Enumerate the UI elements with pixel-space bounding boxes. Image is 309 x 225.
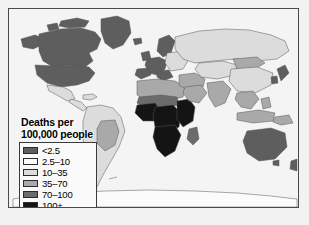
legend-swatch-2-5-10 xyxy=(23,158,38,165)
legend-entry-70-100: 70–100 xyxy=(23,189,93,200)
coastline-tasmania xyxy=(273,160,279,166)
legend-label-35-70: 35–70 xyxy=(42,179,67,189)
legend-entry-10-35: 10–35 xyxy=(23,167,93,178)
legend-label-lt-2-5: <2.5 xyxy=(42,146,60,156)
legend-swatch-lt-2-5 xyxy=(23,147,38,154)
legend-label-2-5-10: 2.5–10 xyxy=(42,157,70,167)
legend-title-line1: Deaths per xyxy=(21,117,101,129)
map-frame: Deaths per 100,000 people <2.5 2.5–10 10… xyxy=(8,8,299,208)
legend-label-100-plus: 100+ xyxy=(42,201,63,208)
legend-label-10-35: 10–35 xyxy=(42,168,67,178)
region-korea xyxy=(271,76,278,84)
legend-entry-lt-2-5: <2.5 xyxy=(23,145,93,156)
legend-swatch-10-35 xyxy=(23,169,38,176)
region-canada xyxy=(39,28,101,67)
legend-entry-2-5-10: 2.5–10 xyxy=(23,156,93,167)
legend-title: Deaths per 100,000 people xyxy=(21,117,101,140)
world-map-figure: Deaths per 100,000 people <2.5 2.5–10 10… xyxy=(0,0,309,225)
region-new-zealand xyxy=(290,159,297,171)
map-legend: Deaths per 100,000 people <2.5 2.5–10 10… xyxy=(19,117,101,208)
legend-title-line2: 100,000 people xyxy=(21,129,101,141)
legend-swatch-100-plus xyxy=(23,202,38,208)
legend-label-70-100: 70–100 xyxy=(42,190,73,200)
legend-entry-100-plus: 100+ xyxy=(23,200,93,208)
region-philippines xyxy=(261,97,271,109)
legend-entry-35-70: 35–70 xyxy=(23,178,93,189)
region-uk xyxy=(141,51,151,61)
legend-swatch-35-70 xyxy=(23,180,38,187)
legend-swatch-70-100 xyxy=(23,191,38,198)
legend-box: <2.5 2.5–10 10–35 35–70 70–100 xyxy=(19,142,97,208)
